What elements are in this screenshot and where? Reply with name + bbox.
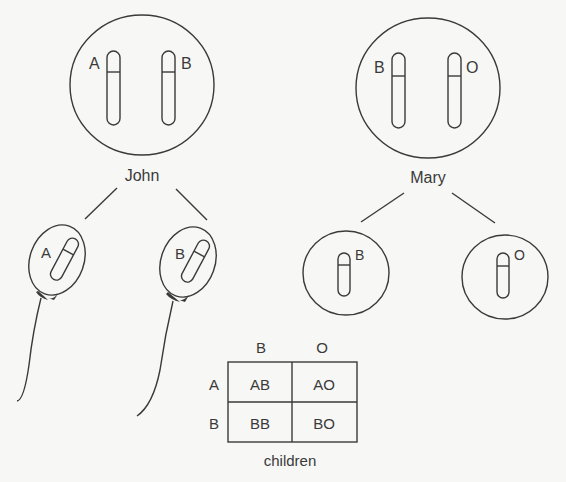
egg-b-allele-label: B xyxy=(355,247,364,263)
father-to-sperm-a-line xyxy=(85,188,117,219)
sperm-a: A xyxy=(17,217,95,401)
egg-membrane xyxy=(303,231,389,315)
sperm-b-allele-label: B xyxy=(175,245,185,262)
chromosome-icon xyxy=(162,51,175,125)
punnett-cell: BB xyxy=(250,415,270,432)
egg-o-allele-label: O xyxy=(514,247,525,263)
punnett-cell: BO xyxy=(313,415,335,432)
punnett-cell: AO xyxy=(313,376,335,393)
father-cell-membrane xyxy=(70,15,214,155)
chromosome-icon xyxy=(107,51,120,125)
punnett-caption: children xyxy=(264,452,317,469)
inheritance-diagram: A B John B O Mary A xyxy=(0,0,566,482)
punnett-col-header: B xyxy=(256,339,266,356)
egg-membrane xyxy=(462,235,548,319)
father-to-sperm-b-line xyxy=(176,189,207,220)
mother-cell: B O xyxy=(356,18,500,158)
chromosome-icon xyxy=(497,253,509,298)
mother-to-egg-o-line xyxy=(452,193,495,223)
egg-b: B xyxy=(303,231,389,315)
father-allele-b-label: B xyxy=(181,55,192,72)
punnett-col-header: O xyxy=(316,339,328,356)
father-allele-a-label: A xyxy=(89,55,100,72)
mother-name-label: Mary xyxy=(410,169,446,186)
sperm-a-allele-label: A xyxy=(41,244,51,261)
punnett-row-header: B xyxy=(209,415,219,432)
punnett-square: B O A B AB AO BB BO children xyxy=(209,339,357,469)
punnett-cell: AB xyxy=(250,376,270,393)
punnett-row-header: A xyxy=(209,376,219,393)
chromosome-icon xyxy=(48,236,80,282)
mother-allele-o-label: O xyxy=(466,59,478,76)
mother-to-egg-b-line xyxy=(361,193,404,222)
mother-cell-membrane xyxy=(356,18,500,158)
sperm-tail xyxy=(137,301,173,416)
sperm-tail xyxy=(17,298,41,401)
father-cell: A B xyxy=(70,15,214,155)
chromosome-icon xyxy=(448,53,461,128)
father-name-label: John xyxy=(125,167,160,184)
mother-allele-b-label: B xyxy=(374,59,385,76)
egg-o: O xyxy=(462,235,548,319)
chromosome-icon xyxy=(338,253,350,296)
chromosome-icon xyxy=(392,53,405,128)
